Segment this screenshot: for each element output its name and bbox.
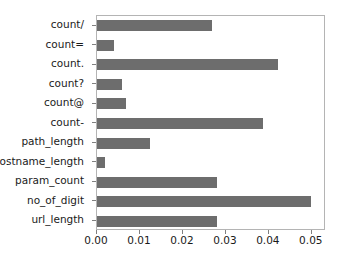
bar-row — [97, 55, 324, 75]
y-tick-label-hostname_length: hostname_length — [0, 152, 84, 172]
y-tick-label-count.: count. — [51, 54, 84, 74]
bar-row — [97, 36, 324, 56]
y-tick-label-count/: count/ — [51, 15, 84, 35]
bar-url_length — [97, 216, 217, 227]
y-tick-label-param_count: param_count — [15, 171, 84, 191]
y-tick-label-count=: count= — [46, 35, 84, 55]
bar-count. — [97, 59, 278, 70]
bar-hostname_length — [97, 157, 105, 168]
x-tick-label-0.04: 0.04 — [256, 234, 279, 246]
bar-count/ — [97, 20, 212, 31]
bar-count- — [97, 118, 263, 129]
x-axis-label-group: 0.000.010.020.030.040.05 — [96, 234, 325, 250]
y-axis-label-group: count/count=count.count?count@count-path… — [0, 15, 92, 230]
bar-row — [97, 75, 324, 95]
bar-count@ — [97, 98, 126, 109]
x-tick-label-0.05: 0.05 — [299, 234, 322, 246]
bar-row — [97, 153, 324, 173]
bars-layer — [97, 16, 324, 229]
y-tick-label-url_length: url_length — [31, 210, 84, 230]
x-tick-label-0.03: 0.03 — [213, 234, 236, 246]
bar-row — [97, 211, 324, 231]
bar-chart-figure: count/count=count.count?count@count-path… — [0, 0, 340, 269]
y-tick-label-count?: count? — [49, 74, 84, 94]
bar-count= — [97, 40, 114, 51]
bar-count? — [97, 79, 122, 90]
bar-row — [97, 133, 324, 153]
y-tick-label-path_length: path_length — [21, 132, 84, 152]
bar-param_count — [97, 177, 217, 188]
x-tick-label-0.01: 0.01 — [127, 234, 150, 246]
y-tick-label-count@: count@ — [44, 93, 84, 113]
x-tick-label-0.02: 0.02 — [170, 234, 193, 246]
bar-row — [97, 114, 324, 134]
plot-area — [96, 15, 325, 230]
bar-row — [97, 94, 324, 114]
bar-row — [97, 172, 324, 192]
x-tick-label-0.00: 0.00 — [84, 234, 107, 246]
y-tick-label-count-: count- — [51, 113, 84, 133]
bar-path_length — [97, 138, 150, 149]
bar-row — [97, 192, 324, 212]
bar-row — [97, 16, 324, 36]
bar-no_of_digit — [97, 196, 311, 207]
y-tick-label-no_of_digit: no_of_digit — [27, 191, 84, 211]
